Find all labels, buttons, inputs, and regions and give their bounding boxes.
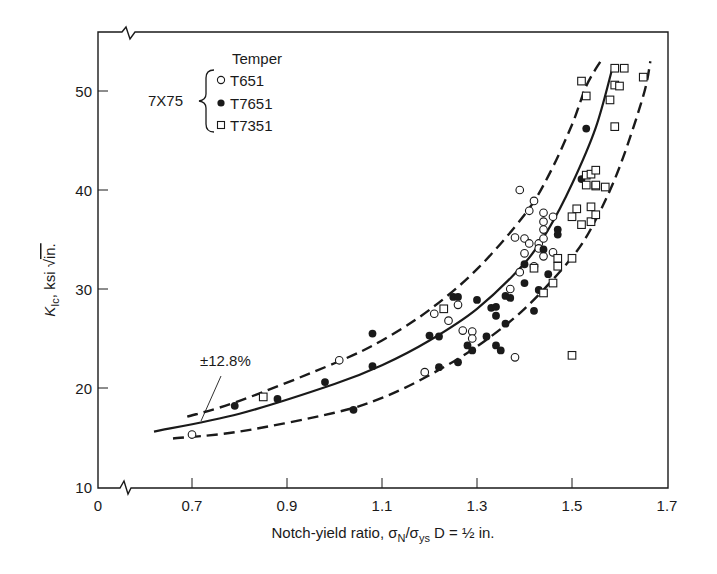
point-t7351 (568, 255, 576, 263)
point-t7651 (350, 406, 358, 414)
point-t7651 (369, 330, 377, 338)
point-t7651 (473, 296, 481, 304)
y-axis-ticks: 1020304050 (75, 83, 108, 496)
point-t7651 (231, 402, 239, 410)
point-t7351 (578, 77, 586, 85)
point-t651 (540, 226, 548, 234)
annotation-leader-line (201, 376, 221, 421)
point-t651 (521, 250, 529, 258)
point-t651 (459, 327, 467, 335)
y-tick-label: 50 (75, 83, 92, 100)
x-tick-label: 1.1 (372, 497, 393, 514)
x-tick-label: 1.5 (562, 497, 583, 514)
point-t651 (540, 218, 548, 226)
point-t7351 (259, 393, 267, 401)
legend-marker-filled-circle-icon (217, 99, 224, 106)
point-t651 (516, 268, 524, 276)
point-t7651 (483, 333, 491, 341)
point-t651 (468, 335, 476, 343)
legend-brace-icon (199, 70, 214, 132)
point-t7351 (540, 289, 548, 297)
point-t7351 (554, 255, 562, 263)
point-t7651 (502, 320, 510, 328)
point-t7651 (435, 363, 443, 371)
y-tick-label: 30 (75, 281, 92, 298)
point-t7351 (611, 123, 619, 131)
point-t7351 (592, 181, 600, 189)
point-t7351 (616, 82, 624, 90)
point-t7651 (497, 346, 505, 354)
point-t651 (421, 368, 429, 376)
legend-entry-t7651: T7651 (230, 95, 273, 112)
point-t7351 (611, 64, 619, 72)
x-axis-ticks: 00.70.91.11.31.51.7 (94, 478, 678, 514)
x-axis-title: Notch-yield ratio, σN/σys D = ½ in. (272, 524, 495, 544)
point-t651 (445, 317, 453, 325)
point-t7351 (568, 213, 576, 221)
point-t651 (525, 240, 533, 248)
point-t7651 (530, 307, 538, 315)
y-axis-title: KIc, ksi √in. (41, 243, 61, 317)
point-t7351 (582, 92, 590, 100)
x-tick-label: 1.7 (657, 497, 678, 514)
point-t7651 (582, 125, 590, 133)
legend-entry-t651: T651 (230, 72, 264, 89)
point-t7351 (568, 352, 576, 360)
legend-marker-open-square-icon (218, 122, 225, 129)
legend-group-label: 7X75 (148, 92, 183, 109)
point-t651 (516, 186, 524, 194)
point-t7651 (435, 333, 443, 341)
point-t7351 (606, 96, 614, 104)
point-t651 (540, 235, 548, 243)
fit-curves (154, 61, 650, 438)
point-t7351 (582, 181, 590, 189)
point-t7651 (454, 358, 462, 366)
point-t7351 (639, 73, 647, 81)
point-t651 (511, 354, 519, 362)
point-t651 (454, 301, 462, 309)
point-t651 (430, 310, 438, 318)
point-t651 (549, 213, 557, 221)
legend-entry-t7351: T7351 (230, 117, 273, 134)
y-tick-label: 20 (75, 380, 92, 397)
point-t7351 (573, 205, 581, 213)
y-tick-label: 10 (75, 479, 92, 496)
chart: 00.70.91.11.31.51.7 1020304050 Temper 7X… (0, 0, 717, 574)
point-t7651 (506, 294, 514, 302)
annotation-label: ±12.8% (200, 352, 251, 369)
legend: Temper 7X75 T651 T7651 T7351 (148, 50, 282, 134)
point-t7651 (454, 293, 462, 301)
x-tick-label: 1.3 (467, 497, 488, 514)
point-t7351 (440, 305, 448, 313)
x-tick-label: 0 (94, 497, 102, 514)
point-t651 (530, 197, 538, 205)
point-t7351 (549, 279, 557, 287)
point-t651 (511, 234, 519, 242)
point-t7351 (578, 221, 586, 229)
point-t651 (335, 356, 343, 364)
point-t7651 (521, 260, 529, 268)
point-t7351 (554, 262, 562, 270)
x-tick-label: 0.9 (277, 497, 298, 514)
point-t7351 (620, 64, 628, 72)
svg-text:KIc, ksi √in.: KIc, ksi √in. (41, 243, 61, 317)
point-t7651 (540, 246, 548, 254)
point-t7651 (274, 395, 282, 403)
point-t7351 (587, 203, 595, 211)
point-t7351 (592, 211, 600, 219)
point-t7351 (592, 166, 600, 174)
point-t651 (188, 431, 196, 439)
point-t7651 (426, 332, 434, 340)
legend-marker-open-circle-icon (217, 76, 224, 83)
point-t7351 (601, 183, 609, 191)
point-t7651 (468, 346, 476, 354)
point-t7651 (554, 231, 562, 239)
point-t7651 (369, 362, 377, 370)
point-t7351 (530, 264, 538, 272)
point-t651 (540, 209, 548, 217)
point-t7651 (521, 279, 529, 287)
point-t651 (525, 207, 533, 215)
point-t7651 (321, 378, 329, 386)
point-t651 (506, 285, 514, 293)
point-t7651 (544, 270, 552, 278)
